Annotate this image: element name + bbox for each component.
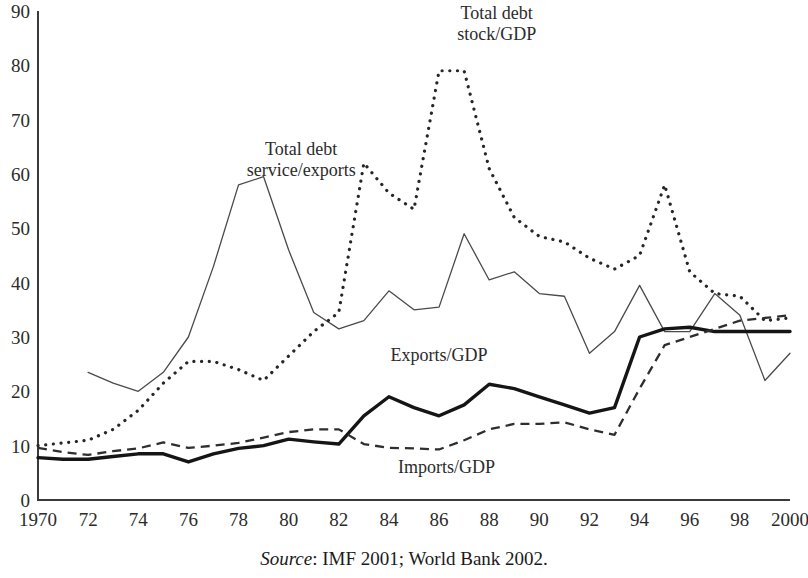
x-tick-label: 1970 [19, 509, 57, 530]
source-label: Source [260, 548, 312, 569]
chart-axes [38, 11, 790, 500]
label-total-debt-service: Total debtservice/exports [247, 139, 356, 180]
label-total-debt-stock-line1: Total debt [461, 3, 533, 23]
x-tick-label: 96 [680, 509, 699, 530]
x-tick-label: 80 [279, 509, 298, 530]
label-exports-gdp: Exports/GDP [391, 345, 488, 365]
y-tick-label: 70 [11, 110, 30, 131]
label-total-debt-service-line2: service/exports [247, 160, 356, 180]
axis-lines [38, 11, 790, 500]
label-total-debt-service-line1: Total debt [265, 139, 337, 159]
x-tick-label: 78 [229, 509, 248, 530]
label-imports-gdp-line1: Imports/GDP [398, 457, 495, 477]
x-tick-label: 94 [630, 509, 650, 530]
data-series-group [38, 71, 790, 462]
y-tick-label: 90 [11, 1, 30, 22]
x-tick-label: 82 [329, 509, 348, 530]
y-tick-label: 30 [11, 327, 30, 348]
x-tick-label: 72 [79, 509, 98, 530]
source-caption: Source: IMF 2001; World Bank 2002. [0, 548, 808, 570]
x-tick-label: 98 [730, 509, 749, 530]
line-chart-plot: 0102030405060708090 19707274767880828486… [0, 0, 808, 578]
figure-container: 0102030405060708090 19707274767880828486… [0, 0, 808, 578]
x-tick-label: 76 [179, 509, 198, 530]
y-tick-label: 60 [11, 164, 30, 185]
x-tick-label: 92 [580, 509, 599, 530]
x-axis-tick-labels: 197072747678808284868890929496982000 [19, 509, 808, 530]
y-axis-tick-labels: 0102030405060708090 [11, 1, 30, 511]
label-total-debt-stock-line2: stock/GDP [457, 24, 536, 44]
series-line [38, 315, 790, 455]
label-imports-gdp: Imports/GDP [398, 457, 495, 477]
y-tick-label: 10 [11, 436, 30, 457]
x-tick-label: 86 [430, 509, 449, 530]
x-tick-label: 74 [129, 509, 149, 530]
label-exports-gdp-line1: Exports/GDP [391, 345, 488, 365]
y-tick-label: 40 [11, 273, 30, 294]
series-line [38, 71, 790, 446]
y-tick-label: 20 [11, 381, 30, 402]
x-tick-label: 88 [480, 509, 499, 530]
label-total-debt-stock: Total debtstock/GDP [457, 3, 536, 44]
y-tick-label: 80 [11, 55, 30, 76]
y-tick-label: 0 [21, 490, 31, 511]
y-tick-label: 50 [11, 218, 30, 239]
series-annotations-group: Total debtservice/exportsTotal debtstock… [247, 3, 537, 477]
source-text: : IMF 2001; World Bank 2002. [312, 548, 548, 569]
x-tick-label: 84 [379, 509, 399, 530]
x-tick-label: 2000 [771, 509, 808, 530]
x-tick-label: 90 [530, 509, 549, 530]
